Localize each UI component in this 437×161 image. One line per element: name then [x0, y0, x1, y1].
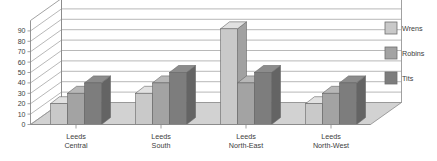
y-tick-label: 40 [18, 79, 26, 86]
bar-front-face [255, 73, 272, 125]
bar [85, 76, 111, 125]
side-wall-gridline [31, 61, 62, 83]
y-tick-label: 60 [18, 59, 26, 66]
bar-front-face [306, 104, 323, 125]
y-tick-label: 0 [22, 121, 26, 128]
bar [255, 66, 281, 125]
bar-chart: 0102030405060708090LeedsCentralLeedsSout… [0, 0, 437, 161]
bar-front-face [323, 93, 340, 124]
chart-canvas: 0102030405060708090LeedsCentralLeedsSout… [0, 0, 437, 161]
side-wall-gridline [31, 71, 62, 93]
y-tick-label: 30 [18, 90, 26, 97]
bar-front-face [136, 93, 153, 124]
y-tick-label: 50 [18, 69, 26, 76]
x-axis-label: Central [64, 141, 88, 150]
x-axis-label: North-West [313, 141, 349, 150]
legend-swatch [385, 22, 397, 34]
legend: WrensRobinsTits [385, 22, 425, 84]
bar-side-face [102, 76, 111, 125]
bar-side-face [272, 66, 281, 125]
legend-swatch [385, 72, 397, 84]
y-tick-label: 70 [18, 48, 26, 55]
bar-front-face [238, 83, 255, 125]
x-axis-label: Leeds [236, 132, 256, 141]
x-axis-label: Leeds [66, 132, 86, 141]
top-side-edge [31, 0, 62, 21]
side-wall-gridline [31, 19, 62, 41]
y-tick-label: 20 [18, 100, 26, 107]
y-tick-label: 90 [18, 27, 26, 34]
bar-front-face [68, 93, 85, 124]
legend-label: Wrens [402, 24, 423, 33]
bar-side-face [187, 66, 196, 125]
bar-front-face [170, 73, 187, 125]
bar-front-face [340, 83, 357, 125]
y-tick-label: 10 [18, 111, 26, 118]
side-wall-gridline [31, 9, 62, 31]
x-axis-label: Leeds [321, 132, 341, 141]
side-wall-gridline [31, 30, 62, 52]
legend-swatch [385, 47, 397, 59]
legend-label: Tits [402, 74, 414, 83]
bar-front-face [51, 104, 68, 125]
bar [340, 76, 366, 125]
bar-side-face [357, 76, 366, 125]
bar-front-face [153, 83, 170, 125]
x-axis-label: North-East [229, 141, 263, 150]
bar-front-face [221, 29, 238, 125]
x-axis-label: South [152, 141, 171, 150]
bar [170, 66, 196, 125]
bar-front-face [85, 83, 102, 125]
side-wall-gridline [31, 51, 62, 73]
side-wall-gridline [31, 40, 62, 62]
x-axis-label: Leeds [151, 132, 171, 141]
legend-label: Robins [402, 49, 425, 58]
y-tick-label: 80 [18, 38, 26, 45]
